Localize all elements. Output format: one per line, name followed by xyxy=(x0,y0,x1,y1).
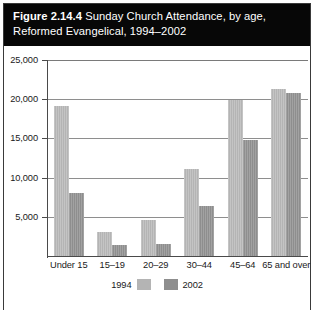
bar-1994-45–64 xyxy=(228,100,243,256)
figure-title-text: Sunday Church Attendance, by age, xyxy=(82,10,266,22)
bar-1994-15–19 xyxy=(97,232,112,256)
legend-label-1994: 1994 xyxy=(111,280,131,290)
figure-title-line-1: Figure 2.14.4 Sunday Church Attendance, … xyxy=(13,9,301,24)
bar-2002-30–44 xyxy=(199,206,214,256)
chart-legend: 1994 2002 xyxy=(4,279,310,290)
chart-plot-area: 25,00020,00015,00010,0005,000 Under 1515… xyxy=(4,46,310,310)
bar-1994-under-15 xyxy=(54,106,69,256)
legend-swatch-2002 xyxy=(164,279,178,290)
bar-1994-20–29 xyxy=(141,220,156,256)
bar-2002-45–64 xyxy=(243,140,258,256)
legend-item-1994: 1994 xyxy=(111,279,150,290)
bar-1994-30–44 xyxy=(184,169,199,256)
x-axis-label-30–44: 30–44 xyxy=(187,260,212,270)
legend-label-2002: 2002 xyxy=(183,280,203,290)
x-axis-label-45–64: 45–64 xyxy=(230,260,255,270)
bar-1994-65-and-over xyxy=(271,89,286,256)
bar-2002-20–29 xyxy=(156,244,171,256)
bar-2002-under-15 xyxy=(69,193,84,256)
legend-swatch-1994 xyxy=(137,279,151,290)
figure-title-line-2: Reformed Evangelical, 1994–2002 xyxy=(13,24,301,39)
figure-title-band: Figure 2.14.4 Sunday Church Attendance, … xyxy=(4,4,310,46)
x-axis-label-under-15: Under 15 xyxy=(50,260,87,270)
bar-2002-15–19 xyxy=(112,245,127,256)
x-axis-label-65-and-over: 65 and over xyxy=(262,260,310,270)
x-axis-label-15–19: 15–19 xyxy=(100,260,125,270)
x-axis-label-20–29: 20–29 xyxy=(143,260,168,270)
bar-2002-65-and-over xyxy=(286,93,301,256)
figure-container: Figure 2.14.4 Sunday Church Attendance, … xyxy=(0,0,314,314)
bars-group xyxy=(4,46,310,310)
figure-number: Figure 2.14.4 xyxy=(13,10,82,22)
legend-item-2002: 2002 xyxy=(164,279,203,290)
